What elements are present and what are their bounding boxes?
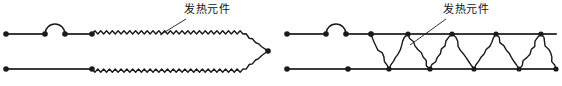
terminal-dot-apex [265,48,271,54]
wire-hop-arc [326,24,346,34]
terminal-dot-upper-hop-right [62,31,68,37]
zigzag-vertex-dot [553,66,558,71]
zigzag-segment [519,34,541,69]
label-leader-line [160,19,186,35]
zigzag-vertex-dot [405,31,410,36]
label-leader-line [410,19,446,45]
zigzag-vertex-dot [449,31,454,36]
zigzag-segment [408,34,430,69]
wavy-heating-element-diagram [3,19,271,72]
terminal-dot-upper-hop-left [323,31,329,37]
wire-hop-arc [45,24,65,34]
zigzag-segment [474,34,496,69]
zigzag-vertex-dot [538,31,543,36]
zigzag-vertex-dot [471,66,476,71]
zigzag-segment [430,34,452,69]
resistance-wire-lower [92,51,268,72]
zigzag-vertex-dot [516,66,521,71]
terminal-dot-upper-hop-right [343,31,349,37]
zigzag-segment [541,34,556,69]
zigzag-segment [389,34,408,69]
zigzag-vertex-dot [493,31,498,36]
zigzag-segment [371,34,389,69]
terminal-dot-upper-hop-left [42,31,48,37]
heating-element-label-right: 发热元件 [443,3,489,16]
terminal-dot-lower-element-start [345,66,351,72]
terminal-dot-upper-left [284,31,290,37]
terminal-dot-upper-element-start [368,31,374,37]
terminal-dot-lower-left [284,66,290,72]
zigzag-vertex-dot [386,66,391,71]
zigzag-segment [452,34,474,69]
terminal-dot-lower-left [3,66,9,72]
terminal-dot-upper-left [3,31,9,37]
terminal-dot-lower-element-start [89,66,95,72]
zigzag-segment [496,34,519,69]
terminal-dot-upper-element-start [89,31,95,37]
zigzag-vertex-dot [427,66,432,71]
heating-element-label-left: 发热元件 [184,3,230,16]
resistance-wire-upper [92,31,268,51]
heating-element-figure: 发热元件 发热元件 [0,0,562,86]
zigzag-heating-element-diagram [284,19,558,72]
